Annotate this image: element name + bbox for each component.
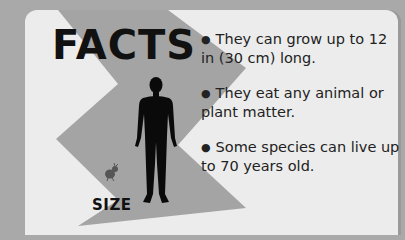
bullet-icon: ● xyxy=(201,87,211,100)
fact-text: They can grow up to 12 in (30 cm) long. xyxy=(201,31,387,66)
fact-text: They eat any animal or plant matter. xyxy=(201,85,384,120)
fact-item: ●Some species can live up to 70 years ol… xyxy=(201,138,401,176)
fact-item: ●They eat any animal or plant matter. xyxy=(201,84,401,122)
facts-list: ●They can grow up to 12 in (30 cm) long.… xyxy=(201,30,401,192)
human-silhouette-icon xyxy=(133,76,179,206)
bullet-icon: ● xyxy=(201,141,211,154)
cockroach-icon xyxy=(104,163,120,181)
facts-title: FACTS xyxy=(52,25,196,65)
bullet-icon: ● xyxy=(201,33,211,46)
fact-item: ●They can grow up to 12 in (30 cm) long. xyxy=(201,30,401,68)
size-label: SIZE xyxy=(92,198,132,213)
fact-text: Some species can live up to 70 years old… xyxy=(201,139,399,174)
